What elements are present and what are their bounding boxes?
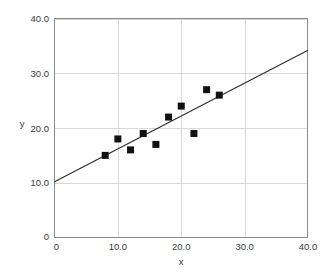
data-point bbox=[178, 103, 185, 110]
x-tick-label: 40.0 bbox=[299, 241, 318, 252]
y-tick-label: 20.0 bbox=[31, 123, 50, 134]
data-point bbox=[114, 135, 121, 142]
scatter-plot-figure: 010.020.030.040.0 010.020.030.040.0 y x bbox=[0, 0, 334, 272]
data-point bbox=[190, 130, 197, 137]
x-tick-label: 20.0 bbox=[172, 241, 191, 252]
plot-canvas: 010.020.030.040.0 010.020.030.040.0 y x bbox=[0, 0, 334, 272]
data-point bbox=[203, 86, 210, 93]
x-axis-title: x bbox=[179, 256, 184, 267]
data-point bbox=[165, 114, 172, 121]
x-axis-tick-labels: 010.020.030.040.0 bbox=[54, 241, 317, 252]
data-point bbox=[152, 141, 159, 148]
y-axis-tick-labels: 010.020.030.040.0 bbox=[31, 13, 50, 242]
data-point bbox=[102, 152, 109, 159]
y-tick-label: 30.0 bbox=[31, 68, 50, 79]
data-point bbox=[216, 92, 223, 99]
data-point bbox=[127, 146, 134, 153]
y-tick-label: 10.0 bbox=[31, 177, 50, 188]
y-axis-title: y bbox=[20, 118, 25, 129]
y-tick-label: 0 bbox=[44, 231, 49, 242]
x-tick-label: 10.0 bbox=[109, 241, 128, 252]
y-tick-label: 40.0 bbox=[31, 13, 50, 24]
data-point bbox=[140, 130, 147, 137]
x-tick-label: 0 bbox=[54, 241, 59, 252]
x-tick-label: 30.0 bbox=[235, 241, 254, 252]
